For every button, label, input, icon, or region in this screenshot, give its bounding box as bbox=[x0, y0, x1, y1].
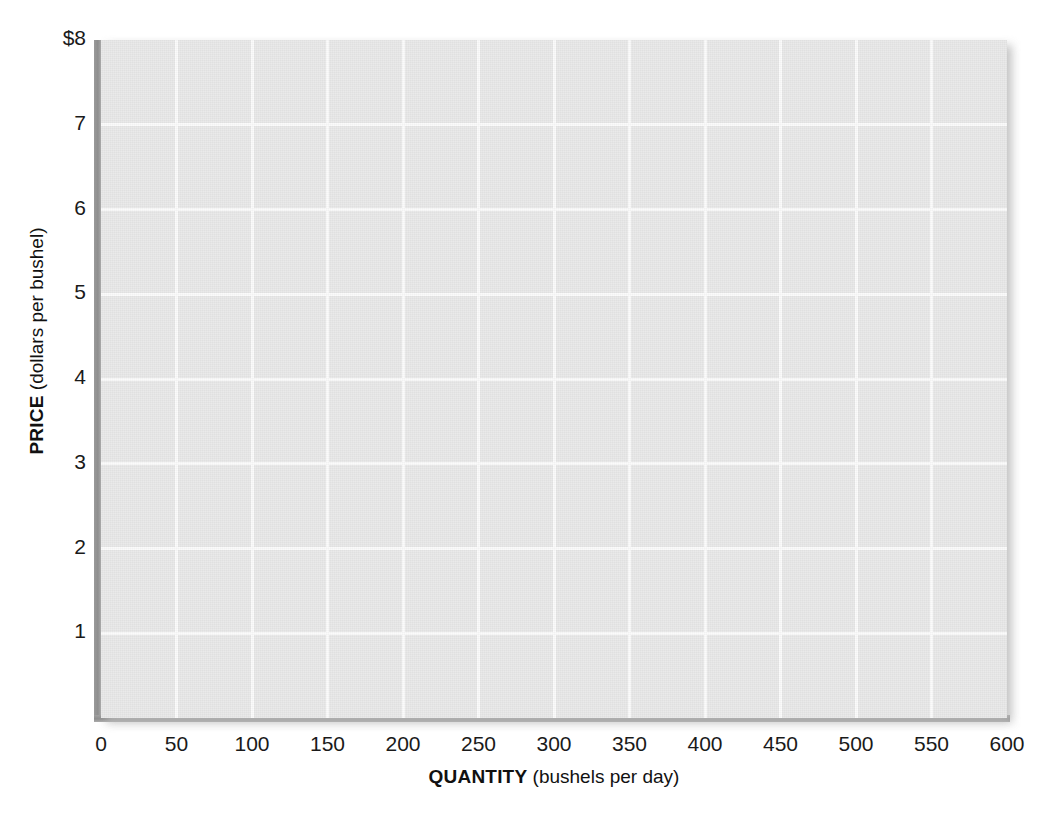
gridline-horizontal bbox=[101, 547, 1007, 550]
x-tick-label: 300 bbox=[514, 732, 594, 756]
y-tick-label: 4 bbox=[0, 365, 86, 389]
plot-area-wrapper bbox=[101, 40, 1007, 718]
chart-figure: PRICE (dollars per bushel) 1234567$8 050… bbox=[0, 0, 1051, 840]
x-tick-label: 350 bbox=[590, 732, 670, 756]
y-axis-title-bold: PRICE bbox=[26, 395, 47, 454]
gridline-horizontal bbox=[101, 378, 1007, 381]
y-axis-line bbox=[94, 40, 101, 722]
x-tick-label: 150 bbox=[288, 732, 368, 756]
y-tick-label: 1 bbox=[0, 619, 86, 643]
gridline-horizontal bbox=[101, 123, 1007, 126]
x-tick-label: 500 bbox=[816, 732, 896, 756]
gridline-horizontal bbox=[101, 293, 1007, 296]
gridline-horizontal bbox=[101, 632, 1007, 635]
gridline-horizontal bbox=[101, 462, 1007, 465]
x-tick-label: 550 bbox=[892, 732, 972, 756]
y-tick-label: 6 bbox=[0, 196, 86, 220]
x-tick-label: 50 bbox=[137, 732, 217, 756]
y-tick-label: $8 bbox=[0, 26, 86, 50]
y-tick-label: 3 bbox=[0, 450, 86, 474]
x-axis-title-rest: (bushels per day) bbox=[527, 766, 679, 787]
y-tick-label: 2 bbox=[0, 535, 86, 559]
x-tick-label: 200 bbox=[363, 732, 443, 756]
x-tick-label: 400 bbox=[665, 732, 745, 756]
x-tick-label: 250 bbox=[439, 732, 519, 756]
y-tick-label: 5 bbox=[0, 280, 86, 304]
x-tick-label: 100 bbox=[212, 732, 292, 756]
y-tick-label: 7 bbox=[0, 111, 86, 135]
plot-area bbox=[101, 40, 1007, 718]
gridline-horizontal bbox=[101, 208, 1007, 211]
x-tick-label: 0 bbox=[61, 732, 141, 756]
x-tick-label: 450 bbox=[741, 732, 821, 756]
x-axis-title-bold: QUANTITY bbox=[429, 766, 528, 787]
x-axis-title: QUANTITY (bushels per day) bbox=[101, 766, 1007, 788]
x-tick-label: 600 bbox=[967, 732, 1047, 756]
